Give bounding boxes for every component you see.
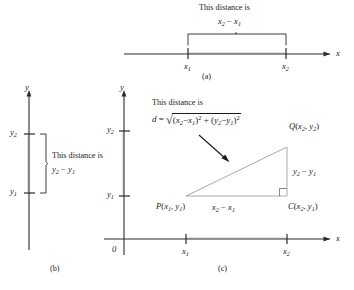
panel-a-note-line2: x2 − x1: [218, 17, 241, 27]
panel-c-xtick-label-x2: x2: [283, 247, 290, 257]
panel-b-note-line2: y2 − y1: [52, 165, 75, 175]
panel-a-measure-brace: [188, 33, 286, 46]
triangle-hypotenuse-PQ: [186, 147, 287, 196]
panel-a-axis-label-x: x: [336, 49, 340, 58]
panel-c-point-label-C: C(x2, y1): [288, 202, 318, 212]
panel-c-ytick-label-y1: y1: [107, 190, 114, 200]
panel-a-x-axis-arrowhead: [324, 52, 331, 57]
panel-c-xtick-label-x1: x1: [182, 247, 189, 257]
distance-formula-figure: [0, 0, 354, 290]
panel-c-side-label-vertical: y2 − y1: [293, 167, 316, 177]
panel-c-point-label-P: P(x1, y1): [156, 202, 185, 212]
panel-c-note-line1: This distance is: [152, 99, 203, 107]
caption-a: (a): [202, 73, 211, 81]
panel-c-point-label-Q: Q(x2, y2): [289, 122, 319, 132]
panel-c-origin-label: 0: [112, 245, 116, 254]
panel-c-side-label-base: x2 − x1: [212, 203, 235, 213]
panel-a-xtick-label-1: x1: [184, 62, 191, 72]
caption-b: (b): [50, 265, 60, 273]
panel-c-axis-label-x: x: [336, 234, 340, 243]
panel-c-x-axis-arrowhead: [324, 237, 331, 242]
panel-c-axis-label-y: y: [120, 83, 124, 92]
panel-b-note-line1: This distance is: [52, 152, 103, 160]
panel-c-ytick-label-y2: y2: [107, 125, 114, 135]
right-angle-marker: [280, 189, 288, 197]
panel-b-number-line: [24, 90, 48, 250]
panel-a-number-line: [124, 33, 330, 59]
caption-c: (c): [218, 265, 227, 273]
panel-b-ytick-label-lower: y1: [10, 187, 17, 197]
panel-c-distance-formula: d = √(x2−x1)2 + (y2−y1)2: [152, 113, 241, 126]
formula-pointer-arrow-shaft: [199, 135, 226, 159]
panel-b-axis-label-y: y: [25, 83, 29, 92]
panel-b-ytick-label-upper: y2: [10, 128, 17, 138]
panel-a-note-line1: This distance is: [199, 4, 250, 12]
panel-b-measure-brace: [40, 134, 48, 193]
panel-a-xtick-label-2: x2: [282, 62, 289, 72]
